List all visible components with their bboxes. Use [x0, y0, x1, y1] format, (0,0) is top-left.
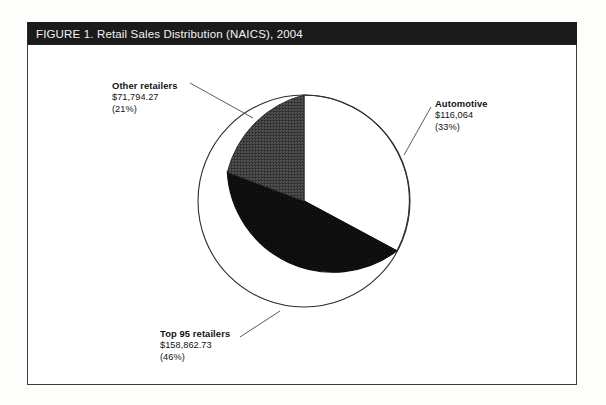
scanned-page: FIGURE 1. Retail Sales Distribution (NAI…	[0, 0, 606, 405]
figure-title-bar: FIGURE 1. Retail Sales Distribution (NAI…	[27, 22, 577, 45]
callout-other-retailers[interactable]: Other retailers $71,794.27 (21%)	[112, 80, 178, 116]
callout-top-95-retailers-percent: (46%)	[160, 352, 230, 364]
callout-automotive[interactable]: Automotive $116,064 (33%)	[435, 98, 488, 134]
leader-line-top-95-retailers	[240, 311, 280, 337]
figure-title: FIGURE 1. Retail Sales Distribution (NAI…	[27, 28, 303, 40]
callout-top-95-retailers[interactable]: Top 95 retailers $158,862.73 (46%)	[160, 328, 230, 364]
callout-automotive-value: $116,064	[435, 110, 488, 122]
callout-other-retailers-value: $71,794.27	[112, 92, 178, 104]
pie-chart-area	[27, 45, 577, 385]
callout-top-95-retailers-name: Top 95 retailers	[160, 328, 230, 340]
leader-line-automotive	[404, 107, 431, 155]
callout-top-95-retailers-value: $158,862.73	[160, 340, 230, 352]
callout-other-retailers-percent: (21%)	[112, 104, 178, 116]
callout-other-retailers-name: Other retailers	[112, 80, 178, 92]
callout-automotive-name: Automotive	[435, 98, 488, 110]
callout-automotive-percent: (33%)	[435, 122, 488, 134]
leader-line-other-retailers	[190, 83, 253, 118]
pie-chart-svg	[27, 45, 577, 385]
